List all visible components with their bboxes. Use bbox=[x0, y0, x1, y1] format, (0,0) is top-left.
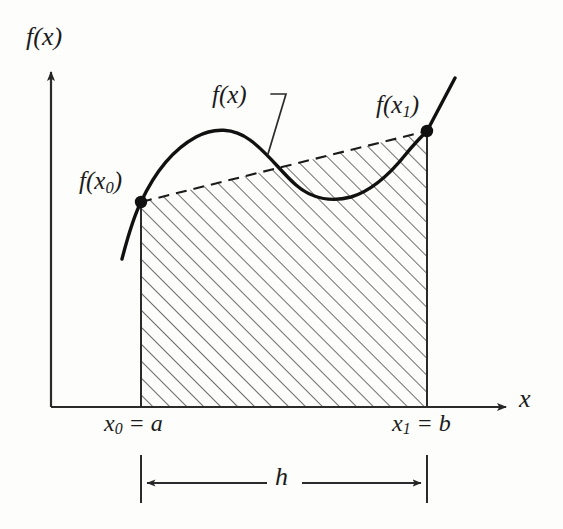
right-endpoint-label-main: f(x bbox=[376, 91, 402, 118]
x-tick-left-sub: 0 bbox=[115, 420, 123, 437]
left-endpoint-label-close: ) bbox=[114, 167, 122, 194]
x-tick-left-rest: = a bbox=[123, 410, 163, 436]
trapezoidal-rule-figure: f(x) x f(x) f(x0) f(x1) x0 = a x1 = b h bbox=[0, 0, 563, 529]
right-endpoint-label: f(x1) bbox=[376, 92, 419, 120]
x-tick-right-sub: 1 bbox=[403, 420, 411, 437]
endpoint-dot-x0 bbox=[135, 196, 147, 208]
x-tick-label-left: x0 = a bbox=[104, 411, 163, 437]
right-endpoint-label-sub: 1 bbox=[402, 102, 410, 121]
x-axis-label: x bbox=[519, 386, 531, 412]
left-endpoint-label: f(x0) bbox=[79, 168, 122, 196]
x-tick-left-var: x bbox=[104, 410, 115, 436]
right-endpoint-label-close: ) bbox=[411, 91, 419, 118]
x-tick-right-var: x bbox=[392, 410, 403, 436]
figure-canvas bbox=[0, 0, 563, 529]
x-tick-label-right: x1 = b bbox=[392, 411, 451, 437]
x-tick-right-rest: = b bbox=[411, 410, 451, 436]
left-endpoint-label-main: f(x bbox=[79, 167, 105, 194]
curve-callout-leader-line bbox=[268, 94, 286, 154]
y-axis-label: f(x) bbox=[26, 24, 62, 50]
left-endpoint-label-sub: 0 bbox=[105, 178, 113, 197]
curve-callout-label: f(x) bbox=[212, 82, 247, 107]
interval-width-label: h bbox=[275, 464, 288, 490]
endpoint-dot-x1 bbox=[421, 125, 433, 137]
